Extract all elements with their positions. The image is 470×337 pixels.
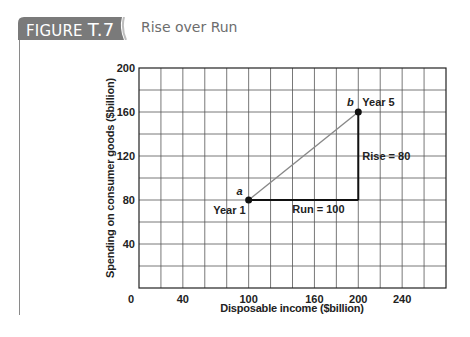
point-b-marker xyxy=(355,109,362,116)
chart-plot: 4080120160200040100160200240aYear 1bYear… xyxy=(0,0,470,337)
x-tick-label: 240 xyxy=(393,293,411,305)
y-tick-label: 40 xyxy=(123,238,135,250)
point-a-label: Year 1 xyxy=(213,204,245,216)
run-annotation: Run = 100 xyxy=(292,203,344,215)
x-axis-label: Disposable income ($billion) xyxy=(220,302,364,314)
x-tick-label: 40 xyxy=(177,293,189,305)
y-tick-label: 80 xyxy=(123,194,135,206)
point-b-label: Year 5 xyxy=(362,96,394,108)
y-tick-label: 120 xyxy=(117,150,135,162)
y-tick-label: 200 xyxy=(117,62,135,74)
y-tick-label: 160 xyxy=(117,106,135,118)
y-axis-label: Spending on consumer goods ($billion) xyxy=(104,78,116,278)
x-tick-label: 0 xyxy=(128,293,134,305)
point-b-id: b xyxy=(347,96,354,108)
point-a-id: a xyxy=(237,185,243,197)
rise-annotation: Rise = 80 xyxy=(362,150,410,162)
point-a-marker xyxy=(245,197,252,204)
